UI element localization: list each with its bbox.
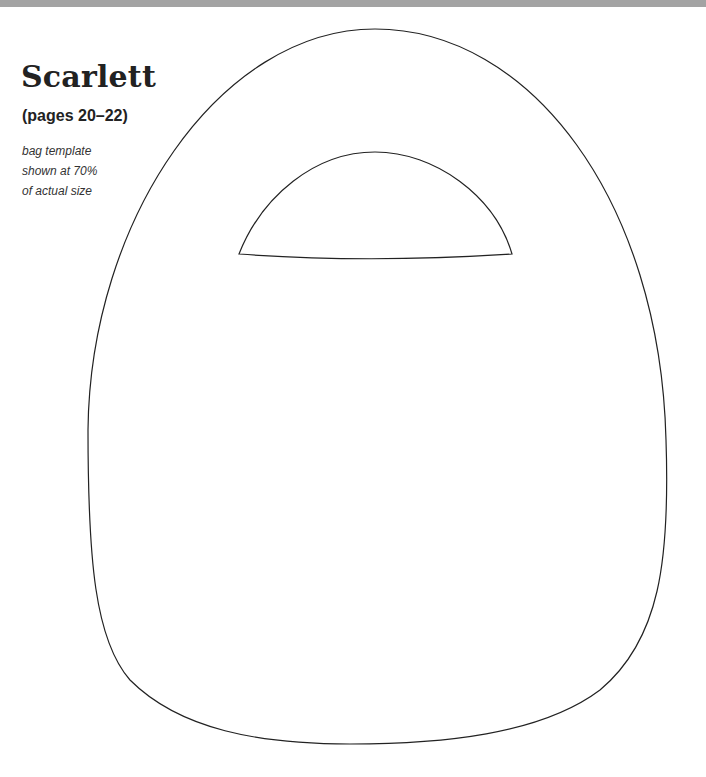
pattern-title: Scarlett [21, 62, 156, 92]
bag-outline [88, 29, 667, 744]
scale-note: bag template shown at 70% of actual size [22, 141, 97, 201]
handle-cutout [239, 152, 512, 259]
scale-note-line: bag template [22, 141, 97, 161]
scale-note-line: shown at 70% [22, 161, 97, 181]
page-reference: (pages 20–22) [22, 108, 128, 124]
scale-note-line: of actual size [22, 181, 97, 201]
